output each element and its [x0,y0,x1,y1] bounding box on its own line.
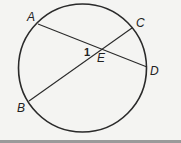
point-label-b: B [17,101,25,115]
angle-1-label: 1 [84,46,90,58]
point-label-a: A [26,10,35,24]
point-label-d: D [150,64,159,78]
circle [19,4,147,132]
point-label-c: C [136,16,145,30]
point-label-e: E [97,51,106,65]
bottom-bar [0,140,181,143]
chord-bc [29,28,132,101]
chord-ad [38,24,147,67]
circle-diagram: A C E D B 1 [0,0,181,143]
